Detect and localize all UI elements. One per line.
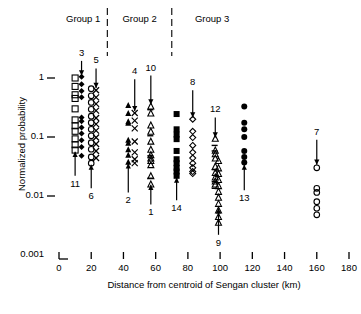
annotation-label-2: 2 bbox=[126, 195, 131, 205]
data-point bbox=[79, 118, 85, 124]
data-point bbox=[314, 190, 320, 196]
annotation-label-5: 5 bbox=[93, 55, 98, 65]
data-point bbox=[190, 135, 196, 141]
data-point bbox=[241, 148, 247, 154]
annotation-arrow-1 bbox=[148, 185, 153, 205]
data-point bbox=[132, 138, 138, 144]
data-point bbox=[72, 136, 78, 142]
annotation-label-4: 4 bbox=[132, 66, 137, 76]
chart-canvas: Normalized probability Distance from cen… bbox=[0, 0, 361, 314]
data-point bbox=[79, 137, 85, 143]
annotation-label-13: 13 bbox=[239, 193, 250, 203]
annotation-arrow-4 bbox=[132, 79, 137, 111]
x-axis-tick-label: 140 bbox=[277, 263, 293, 273]
data-point bbox=[125, 152, 131, 158]
data-point bbox=[132, 118, 138, 124]
x-axis-tick-label: 80 bbox=[183, 263, 194, 273]
data-point bbox=[79, 88, 85, 94]
data-point bbox=[190, 142, 196, 148]
y-axis-tick-label: 1 bbox=[39, 72, 44, 82]
annotation-arrow-2 bbox=[126, 163, 131, 192]
data-point bbox=[72, 117, 78, 123]
data-point bbox=[72, 95, 78, 101]
data-point bbox=[241, 134, 247, 140]
x-axis-tick-label: 100 bbox=[212, 263, 228, 273]
data-point bbox=[79, 81, 85, 87]
data-point bbox=[79, 144, 85, 150]
data-point bbox=[88, 146, 94, 152]
y-axis-title: Normalized probability bbox=[16, 97, 27, 191]
annotation-arrow-8 bbox=[190, 90, 195, 117]
data-point bbox=[125, 102, 131, 108]
group-label-1: Group 1 bbox=[66, 14, 100, 24]
data-point bbox=[241, 103, 247, 109]
chart-plot-area bbox=[0, 0, 361, 314]
data-point bbox=[174, 136, 180, 142]
x-axis-tick-label: 40 bbox=[118, 263, 129, 273]
data-point bbox=[88, 93, 94, 99]
annotation-arrow-3 bbox=[79, 61, 84, 76]
data-point bbox=[241, 126, 247, 132]
data-point bbox=[241, 120, 247, 126]
annotation-label-10: 10 bbox=[146, 63, 157, 73]
data-point bbox=[148, 128, 154, 134]
data-point bbox=[88, 113, 94, 119]
annotation-label-7: 7 bbox=[314, 127, 319, 137]
data-point bbox=[88, 140, 94, 146]
annotation-arrow-5 bbox=[93, 68, 98, 87]
x-axis-tick-label: 0 bbox=[56, 263, 61, 273]
data-point bbox=[148, 110, 154, 116]
annotation-label-12: 12 bbox=[210, 104, 221, 114]
annotation-label-6: 6 bbox=[89, 191, 94, 201]
data-point bbox=[125, 146, 131, 152]
data-point bbox=[314, 212, 320, 218]
x-axis-tick-label: 60 bbox=[150, 263, 161, 273]
data-point bbox=[88, 127, 94, 133]
data-point bbox=[174, 148, 180, 154]
data-point bbox=[72, 106, 78, 112]
annotation-arrow-9 bbox=[216, 208, 221, 235]
data-point bbox=[241, 154, 247, 160]
data-point bbox=[314, 205, 320, 211]
data-point bbox=[79, 124, 85, 130]
x-axis-tick-label: 120 bbox=[244, 263, 260, 273]
annotation-arrow-6 bbox=[89, 165, 94, 189]
group-label-2: Group 2 bbox=[122, 14, 156, 24]
data-point bbox=[88, 100, 94, 106]
annotation-arrow-7 bbox=[314, 140, 319, 165]
data-point bbox=[216, 200, 222, 206]
data-point bbox=[72, 75, 78, 81]
x-axis-tick-label: 20 bbox=[86, 263, 97, 273]
annotation-arrow-11 bbox=[73, 152, 78, 176]
annotation-label-1: 1 bbox=[148, 207, 153, 217]
annotation-arrow-14 bbox=[174, 178, 179, 201]
data-point bbox=[125, 140, 131, 146]
x-axis-tick-label: 160 bbox=[309, 263, 325, 273]
annotation-arrow-10 bbox=[148, 76, 153, 105]
annotation-label-8: 8 bbox=[190, 77, 195, 87]
data-point bbox=[132, 125, 138, 131]
data-point bbox=[72, 83, 78, 89]
annotation-label-14: 14 bbox=[171, 203, 182, 213]
annotation-arrow-12 bbox=[213, 117, 218, 137]
data-point bbox=[132, 149, 138, 155]
annotation-label-9: 9 bbox=[216, 238, 221, 248]
data-point bbox=[148, 138, 154, 144]
data-point bbox=[125, 110, 131, 116]
data-point bbox=[314, 199, 320, 205]
annotation-label-11: 11 bbox=[70, 179, 80, 189]
data-point bbox=[132, 160, 138, 166]
data-point bbox=[190, 128, 196, 134]
y-axis-tick-label: 0.01 bbox=[26, 190, 45, 200]
data-point bbox=[72, 92, 78, 98]
data-point bbox=[79, 94, 85, 100]
y-axis-tick-label: 0.1 bbox=[31, 131, 44, 141]
y-axis-tick-label: 0.001 bbox=[20, 249, 44, 259]
data-point bbox=[241, 159, 247, 165]
x-axis-tick-label: 180 bbox=[341, 263, 357, 273]
data-point bbox=[314, 165, 320, 171]
data-point bbox=[88, 106, 94, 112]
data-point bbox=[88, 86, 94, 92]
data-point bbox=[174, 111, 180, 117]
data-point bbox=[79, 130, 85, 136]
